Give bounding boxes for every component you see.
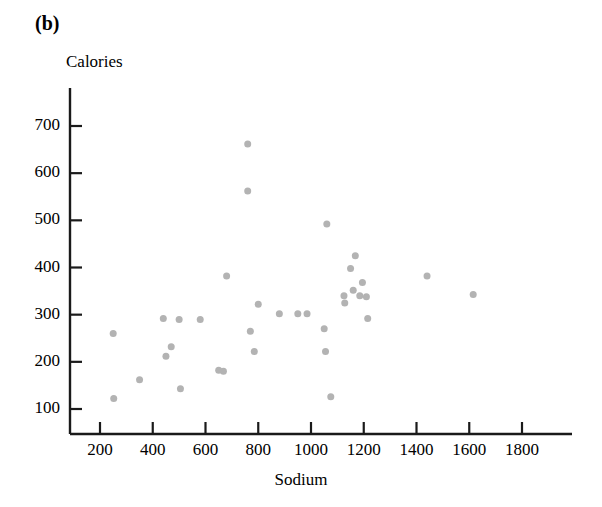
scatter-point: [340, 292, 347, 299]
scatter-point: [110, 330, 117, 337]
scatter-point: [244, 140, 251, 147]
scatter-point: [176, 316, 183, 323]
scatter-point: [160, 315, 167, 322]
scatter-point: [251, 348, 258, 355]
y-tick-marks: [70, 126, 82, 409]
y-tick-label: 700: [14, 115, 60, 135]
x-tick-label: 600: [176, 440, 236, 460]
x-tick-label: 1800: [492, 440, 552, 460]
scatter-point: [247, 328, 254, 335]
scatter-point: [364, 315, 371, 322]
scatter-point: [110, 395, 117, 402]
x-tick-label: 200: [70, 440, 130, 460]
scatter-point: [276, 310, 283, 317]
scatter-point: [363, 293, 370, 300]
scatter-point: [162, 353, 169, 360]
x-tick-label: 1000: [281, 440, 341, 460]
axes-group: [70, 88, 572, 434]
scatter-point: [197, 316, 204, 323]
scatter-plot-figure: (b) Calories 100200300400500600700 20040…: [0, 0, 602, 507]
x-axis-title: Sodium: [0, 470, 602, 490]
scatter-point: [341, 299, 348, 306]
scatter-point: [424, 272, 431, 279]
y-tick-label: 400: [14, 257, 60, 277]
scatter-point: [356, 292, 363, 299]
scatter-point: [294, 310, 301, 317]
scatter-point: [244, 188, 251, 195]
scatter-point: [136, 376, 143, 383]
scatter-point: [352, 252, 359, 259]
scatter-point: [223, 272, 230, 279]
scatter-point: [359, 279, 366, 286]
y-tick-label: 600: [14, 162, 60, 182]
data-points-group: [110, 140, 477, 402]
scatter-point: [255, 301, 262, 308]
scatter-point: [321, 325, 328, 332]
scatter-point: [322, 348, 329, 355]
scatter-point: [177, 385, 184, 392]
x-tick-label: 1400: [387, 440, 447, 460]
scatter-point: [470, 291, 477, 298]
y-tick-label: 500: [14, 209, 60, 229]
y-tick-label: 200: [14, 351, 60, 371]
scatter-point: [323, 221, 330, 228]
scatter-point: [304, 310, 311, 317]
scatter-point: [350, 287, 357, 294]
y-tick-label: 100: [14, 398, 60, 418]
scatter-point: [327, 393, 334, 400]
scatter-point: [220, 368, 227, 375]
x-tick-label: 400: [123, 440, 183, 460]
x-tick-marks: [100, 422, 522, 434]
scatter-point: [347, 265, 354, 272]
x-tick-label: 1600: [439, 440, 499, 460]
scatter-point: [168, 343, 175, 350]
y-tick-label: 300: [14, 304, 60, 324]
x-tick-label: 800: [228, 440, 288, 460]
plot-canvas: [0, 0, 602, 507]
x-tick-label: 1200: [334, 440, 394, 460]
